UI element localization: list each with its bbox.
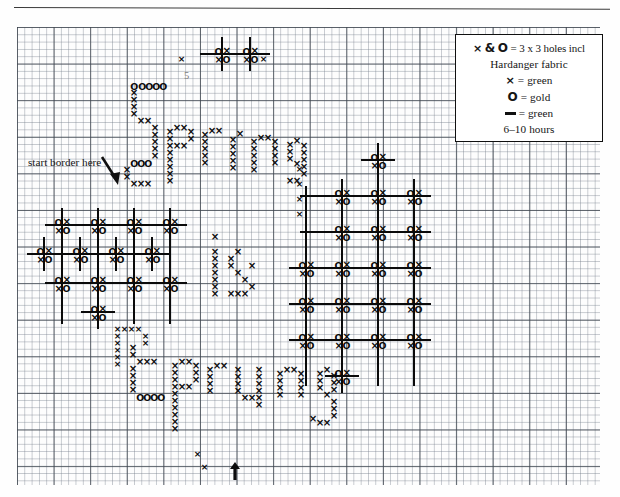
stitch-o: O [130,159,138,168]
stitch-o: O [157,393,165,402]
stitch-o: O [307,269,315,278]
stitch-x: × [215,126,224,136]
stitch-x: × [229,163,238,173]
backstitch-dash [341,186,343,386]
stitch-x: × [250,165,259,175]
stitch-x: × [236,129,245,139]
stitch-o: O [415,197,423,206]
stitch-o: O [379,341,387,350]
stitch-x: × [201,463,209,472]
stitch-x: × [296,195,304,204]
stitch-o: O [307,341,315,350]
legend-o-icon-2: O [508,90,518,104]
stitch-x: × [114,360,122,369]
backstitch-dash [133,212,135,324]
legend-x-icon: × [473,42,482,55]
legend-line-hours: 6–10 hours [460,122,598,138]
stitch-o: O [415,233,423,242]
backstitch-dash [34,253,164,255]
backstitch-dash [52,224,182,226]
stitch-x: × [150,357,159,367]
backstitch-dash [300,303,428,305]
stitch-x: × [178,382,187,392]
stitch-x: × [276,390,285,400]
legend-x-icon-2: × [505,74,514,87]
stitch-o: O [415,341,423,350]
stitch-o: O [135,226,143,235]
stitch-o: O [307,305,315,314]
backstitch-dash [300,195,428,197]
backstitch-dash [300,267,428,269]
stitch-o: O [223,55,231,64]
stitch-x: × [206,386,215,396]
count-marker-5: 5 [184,70,189,81]
stitch-x: × [194,450,202,459]
legend-gold-text: = gold [521,91,551,103]
stitch-x: × [271,158,280,168]
stitch-x: × [142,339,150,348]
stitch-x: × [220,361,229,371]
stitch-o: O [171,226,179,235]
stitch-x: × [286,176,295,186]
stitch-o: O [379,305,387,314]
stitch-o: O [343,197,351,206]
stitch-o: O [144,159,152,168]
stitch-o: O [415,305,423,314]
legend-units-text: = 3 x 3 holes incl [511,42,585,54]
start-border-arrow-icon [99,155,125,191]
backstitch-dash [413,186,415,386]
stitch-o: O [343,377,351,386]
stitch-o: O [251,55,259,64]
stitch-x: × [260,55,268,64]
stitch-x: × [211,289,220,299]
stitch-x: × [227,289,236,299]
stitch-o: O [379,269,387,278]
stitch-x: × [171,424,180,434]
legend-line-units: × & O = 3 x 3 holes incl [460,40,598,57]
stitch-o: O [63,284,71,293]
legend-o-icon: O [498,41,508,55]
legend-line-fabric: Hardanger fabric [460,57,598,73]
stitch-x: × [178,55,186,64]
chart-page: O××OO××OO××OO××OO××OO××OO××OO××OO××OO××O… [0,0,620,497]
stitch-x: × [211,232,220,242]
stitch-o: O [343,233,351,242]
stitch-x: × [323,365,332,375]
stitch-o: O [137,159,145,168]
stitch-o: O [45,255,53,264]
stitch-o: O [99,284,107,293]
backstitch-dash [300,339,428,341]
legend-backstitch-text: = green [519,107,554,119]
stitch-o: O [153,255,161,264]
legend-green-text: = green [518,74,553,86]
stitch-o: O [343,269,351,278]
stitch-o: O [81,255,89,264]
stitch-o: O [99,313,107,322]
backstitch-dash [169,212,171,324]
center-marker-arrow-icon [227,461,243,481]
legend-box: × & O = 3 x 3 holes incl Hardanger fabri… [455,34,603,142]
stitch-o: O [379,233,387,242]
backstitch-dash [377,186,379,386]
backstitch-dash [97,300,99,326]
stitch-x: × [255,400,264,410]
backstitch-dash [61,212,63,324]
stitch-o: O [63,226,71,235]
stitch-x: × [297,390,306,400]
start-border-note: start border here [28,156,101,168]
backstitch-dash [300,231,428,233]
stitch-o: O [379,161,387,170]
stitch-x: × [309,414,318,424]
stitch-x: × [296,210,304,219]
stitch-x: × [173,141,182,151]
stitch-x: × [201,158,210,168]
stitch-x: × [293,136,302,146]
stitch-x: × [166,176,175,186]
stitch-o: O [171,284,179,293]
legend-line-backstitch: = green [460,106,598,122]
stitch-o: O [379,197,387,206]
stitch-o: O [159,82,167,91]
stitch-x: × [248,261,257,271]
legend-line-green-x: × = green [460,73,598,89]
stitch-o: O [415,269,423,278]
